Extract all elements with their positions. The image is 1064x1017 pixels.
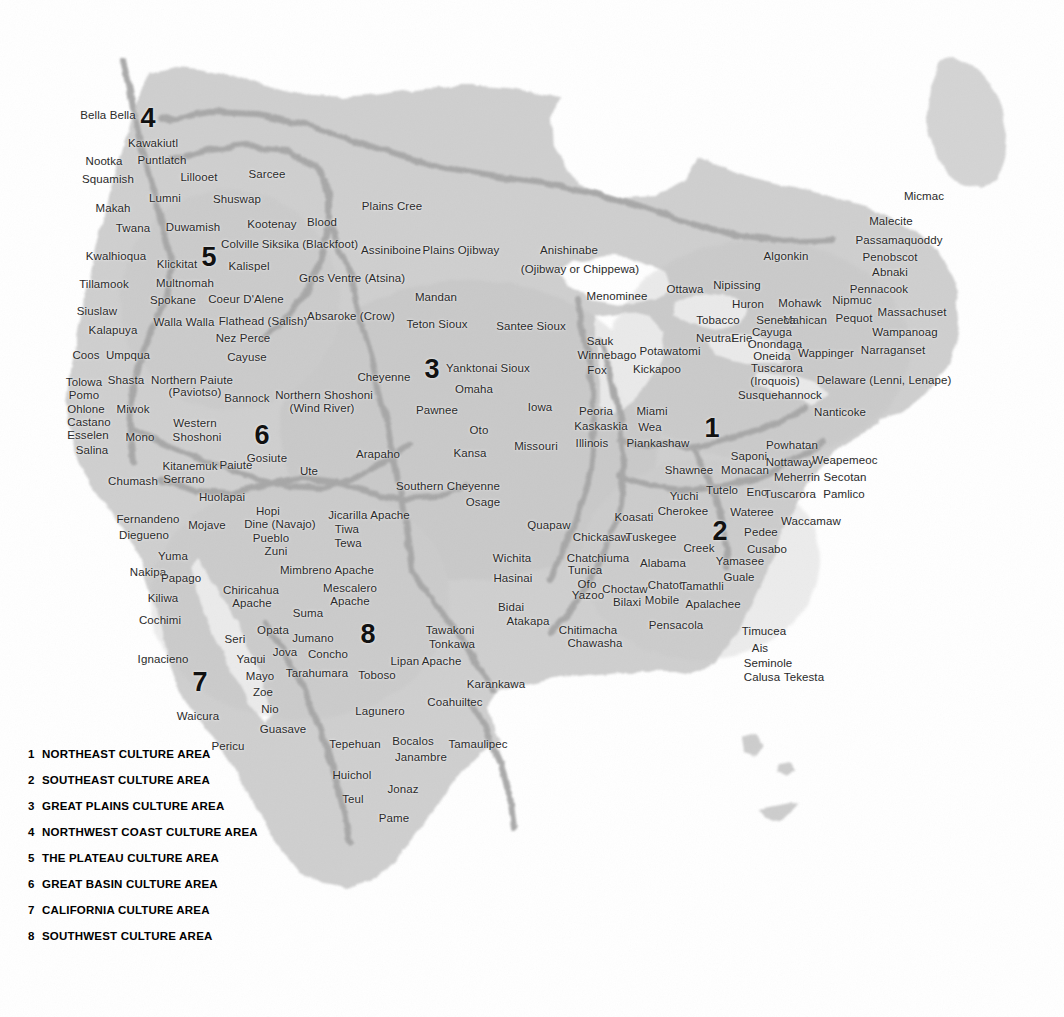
legend-item-number: 2 — [28, 774, 42, 786]
culture-area-number-2: 2 — [712, 516, 727, 547]
legend-item-label: THE PLATEAU CULTURE AREA — [42, 852, 219, 864]
culture-area-number-5: 5 — [201, 242, 216, 273]
legend-item-number: 6 — [28, 878, 42, 890]
legend-item-label: NORTHWEST COAST CULTURE AREA — [42, 826, 258, 838]
culture-area-number-4: 4 — [140, 103, 155, 134]
map-container: Bella BellaKawakiutlNootkaPuntlatchSquam… — [0, 0, 1064, 1017]
culture-area-number-1: 1 — [704, 413, 719, 444]
legend-item-label: GREAT BASIN CULTURE AREA — [42, 878, 218, 890]
legend-item-label: NORTHEAST CULTURE AREA — [42, 748, 211, 760]
legend-item-number: 3 — [28, 800, 42, 812]
culture-area-number-6: 6 — [254, 420, 269, 451]
legend-item-label: SOUTHWEST CULTURE AREA — [42, 930, 213, 942]
legend-item-7: 7CALIFORNIA CULTURE AREA — [28, 904, 328, 916]
legend-item-label: SOUTHEAST CULTURE AREA — [42, 774, 210, 786]
legend-item-6: 6GREAT BASIN CULTURE AREA — [28, 878, 328, 890]
legend-item-5: 5THE PLATEAU CULTURE AREA — [28, 852, 328, 864]
legend-item-number: 1 — [28, 748, 42, 760]
legend-item-number: 8 — [28, 930, 42, 942]
legend-item-label: GREAT PLAINS CULTURE AREA — [42, 800, 224, 812]
legend-item-number: 7 — [28, 904, 42, 916]
legend: 1NORTHEAST CULTURE AREA2SOUTHEAST CULTUR… — [28, 748, 328, 956]
legend-item-number: 4 — [28, 826, 42, 838]
culture-area-number-3: 3 — [424, 354, 439, 385]
culture-area-number-8: 8 — [360, 619, 375, 650]
legend-item-2: 2SOUTHEAST CULTURE AREA — [28, 774, 328, 786]
legend-item-3: 3GREAT PLAINS CULTURE AREA — [28, 800, 328, 812]
legend-item-1: 1NORTHEAST CULTURE AREA — [28, 748, 328, 760]
legend-item-8: 8SOUTHWEST CULTURE AREA — [28, 930, 328, 942]
legend-item-4: 4NORTHWEST COAST CULTURE AREA — [28, 826, 328, 838]
legend-item-number: 5 — [28, 852, 42, 864]
legend-item-label: CALIFORNIA CULTURE AREA — [42, 904, 210, 916]
culture-area-number-7: 7 — [192, 667, 207, 698]
